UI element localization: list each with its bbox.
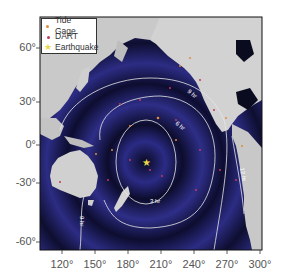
y-tick-60: 60° xyxy=(2,41,36,53)
legend-item-earthquake: ★ Earthquake xyxy=(44,42,94,53)
legend-item-tide-gage: Tide Gage xyxy=(44,20,94,31)
dart-dot-icon xyxy=(47,36,50,39)
legend-label: Earthquake xyxy=(55,42,98,53)
earthquake-star-icon: ★ xyxy=(44,43,52,52)
y-tick-minus30: -30° xyxy=(2,176,36,188)
x-tick-150: 150° xyxy=(80,258,110,270)
tsunami-travel-time-map: ★ 3 hr 6 hr 9 hr 9 hr 12 hr Tide Gage xyxy=(0,0,300,277)
map-legend: Tide Gage DART ★ Earthquake xyxy=(41,18,97,54)
y-tick-minus60: -60° xyxy=(2,235,36,247)
earthquake-star-icon: ★ xyxy=(142,157,151,168)
legend-label: DART xyxy=(55,31,78,42)
x-tick-180: 180° xyxy=(113,258,143,270)
x-tick-240: 240° xyxy=(179,258,209,270)
x-tick-300: 300° xyxy=(245,258,275,270)
y-tick-0: 0° xyxy=(2,138,36,150)
y-tick-30: 30° xyxy=(2,95,36,107)
contour-label-9hr-west: 9 hr xyxy=(79,216,85,226)
tide-gage-dot-icon xyxy=(46,25,49,28)
x-tick-120: 120° xyxy=(47,258,77,270)
x-tick-210: 210° xyxy=(146,258,176,270)
contour-label-3hr: 3 hr xyxy=(150,198,160,204)
x-tick-270: 270° xyxy=(212,258,242,270)
